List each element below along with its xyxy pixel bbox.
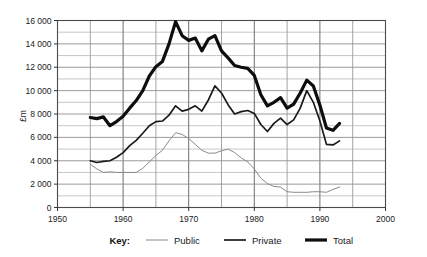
line-chart: 02 0004 0006 0008 00010 00012 00014 0001… — [0, 0, 427, 257]
y-axis-title: £m — [18, 110, 28, 122]
legend-label-private: Private — [252, 235, 282, 246]
x-axis: 195019601970198019902000 — [48, 208, 395, 224]
y-tick-label: 4 000 — [30, 156, 52, 166]
series-line-public — [90, 133, 339, 193]
x-tick-label: 2000 — [376, 214, 395, 224]
x-tick-label: 1990 — [310, 214, 329, 224]
x-tick-label: 1960 — [114, 214, 133, 224]
x-tick-label: 1980 — [245, 214, 264, 224]
y-tick-label: 12 000 — [26, 62, 52, 72]
y-tick-label: 14 000 — [26, 39, 52, 49]
y-tick-label: 8 000 — [30, 109, 52, 119]
y-tick-label: 2 000 — [30, 179, 52, 189]
series-line-private — [90, 86, 339, 163]
y-tick-label: 16 000 — [26, 16, 52, 26]
legend-label-total: Total — [333, 235, 353, 246]
legend-label-public: Public — [174, 235, 200, 246]
y-tick-label: 0 — [47, 203, 52, 213]
y-tick-label: 6 000 — [30, 132, 52, 142]
x-tick-label: 1970 — [179, 214, 198, 224]
y-axis: 02 0004 0006 0008 00010 00012 00014 0001… — [26, 16, 58, 213]
chart-container: 02 0004 0006 0008 00010 00012 00014 0001… — [0, 0, 427, 257]
y-tick-label: 10 000 — [26, 86, 52, 96]
legend-key-label: Key: — [109, 235, 130, 246]
data-series-group — [90, 22, 339, 193]
x-tick-label: 1950 — [48, 214, 67, 224]
chart-legend: Key:PublicPrivateTotal — [109, 235, 353, 246]
